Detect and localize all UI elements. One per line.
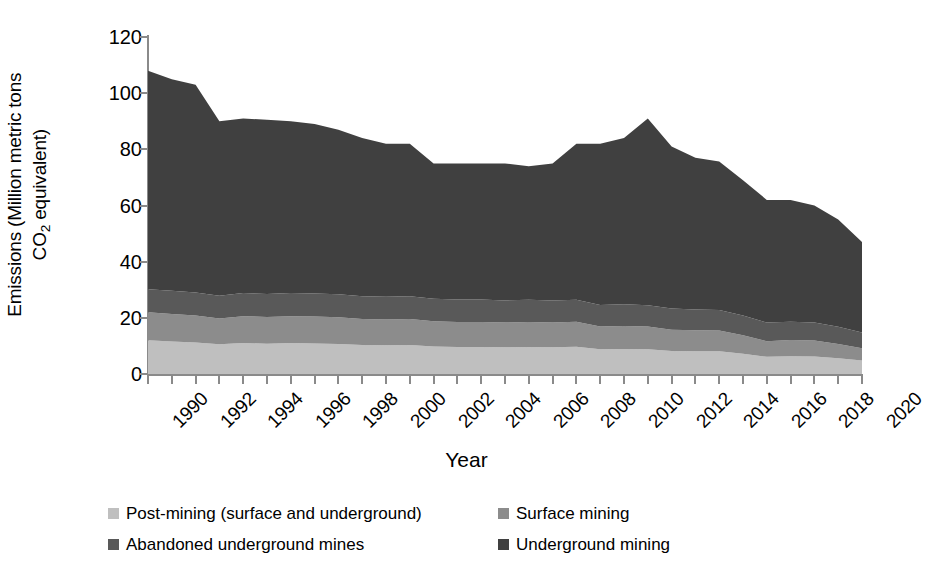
- x-axis-tick-mark: [266, 376, 268, 384]
- x-axis-tick-label: 2000: [406, 388, 451, 433]
- y-axis-tick-label: 80: [100, 138, 142, 161]
- x-axis-tick-label: 2012: [692, 388, 737, 433]
- x-axis-tick-mark: [647, 376, 649, 384]
- x-axis-tick-mark: [242, 376, 244, 384]
- x-axis-tick-mark: [766, 376, 768, 384]
- y-axis-tick-label: 100: [100, 82, 142, 105]
- area-series: [148, 71, 862, 333]
- x-axis-tick-mark: [147, 376, 149, 384]
- legend-item[interactable]: Post-mining (surface and underground): [108, 504, 498, 524]
- x-axis-tick-label: 1992: [216, 388, 261, 433]
- x-axis-tick-mark: [314, 376, 316, 384]
- stacked-area-series-group: [148, 37, 862, 374]
- x-axis-tick-mark: [837, 376, 839, 384]
- x-axis-tick-mark: [742, 376, 744, 384]
- x-axis-tick-label: 2016: [787, 388, 832, 433]
- y-axis-tick-mark: [140, 92, 148, 94]
- y-axis-tick-mark: [140, 373, 148, 375]
- y-axis-title-equivalent: equivalent): [29, 129, 50, 225]
- x-axis-tick-mark: [575, 376, 577, 384]
- legend-label: Surface mining: [516, 504, 629, 524]
- x-axis-tick-mark: [409, 376, 411, 384]
- legend-swatch-icon: [498, 508, 509, 519]
- x-axis-tick-mark: [694, 376, 696, 384]
- x-axis-tick-label: 1994: [263, 388, 308, 433]
- y-axis-tick-labels: 120100806040200: [88, 37, 142, 374]
- x-axis-tick-label: 2018: [834, 388, 879, 433]
- y-axis-tick-label: 60: [100, 194, 142, 217]
- x-axis-tick-mark: [504, 376, 506, 384]
- x-axis-tick-mark: [599, 376, 601, 384]
- x-axis-tick-mark: [480, 376, 482, 384]
- y-axis-title-line1: Emissions (Million metric tons: [4, 73, 25, 317]
- x-axis-tick-label: 2002: [454, 388, 499, 433]
- y-axis-title-subscript: 2: [38, 225, 53, 232]
- legend-item[interactable]: Surface mining: [498, 504, 808, 524]
- x-axis-tick-label: 1990: [168, 388, 213, 433]
- legend-swatch-icon: [108, 508, 119, 519]
- y-axis-tick-label: 40: [100, 250, 142, 273]
- x-axis-title-container: Year: [0, 448, 873, 472]
- x-axis-tick-mark: [385, 376, 387, 384]
- x-axis-tick-label: 2014: [739, 388, 784, 433]
- y-axis-tick-mark: [140, 148, 148, 150]
- y-axis-title-line2: CO2 equivalent): [27, 73, 57, 317]
- x-axis-tick-label: 1998: [358, 388, 403, 433]
- legend-swatch-icon: [498, 539, 509, 550]
- x-axis-tick-mark: [552, 376, 554, 384]
- legend-swatch-icon: [108, 539, 119, 550]
- x-axis-tick-mark: [218, 376, 220, 384]
- x-axis-tick-label: 2020: [882, 388, 926, 433]
- x-axis-tick-mark: [433, 376, 435, 384]
- x-axis-tick-mark: [337, 376, 339, 384]
- legend-item[interactable]: Underground mining: [498, 535, 808, 555]
- chart-legend: Post-mining (surface and underground)Sur…: [108, 498, 808, 560]
- x-axis-tick-mark: [171, 376, 173, 384]
- y-axis-tick-label: 120: [100, 26, 142, 49]
- x-axis-tick-mark: [195, 376, 197, 384]
- y-axis-title-container: Emissions (Million metric tons CO2 equiv…: [0, 0, 60, 390]
- x-axis-tick-mark: [671, 376, 673, 384]
- y-axis-tick-mark: [140, 36, 148, 38]
- plot-area: [148, 37, 862, 374]
- x-axis-tick-label: 2006: [549, 388, 594, 433]
- y-axis-tick-label: 20: [100, 306, 142, 329]
- x-axis-tick-mark: [623, 376, 625, 384]
- x-axis-tick-mark: [718, 376, 720, 384]
- x-axis-tick-mark: [361, 376, 363, 384]
- x-axis-tick-mark: [813, 376, 815, 384]
- x-axis-title: Year: [385, 448, 487, 471]
- legend-label: Post-mining (surface and underground): [126, 504, 422, 524]
- x-axis-tick-mark: [290, 376, 292, 384]
- x-axis-tick-mark: [861, 376, 863, 384]
- y-axis-title: Emissions (Million metric tons CO2 equiv…: [2, 73, 57, 317]
- x-axis-tick-label: 2010: [644, 388, 689, 433]
- x-axis-tick-label: 2008: [596, 388, 641, 433]
- y-axis-tick-mark: [140, 261, 148, 263]
- x-axis-tick-label: 2004: [501, 388, 546, 433]
- y-axis-tick-label: 0: [100, 363, 142, 386]
- x-axis-tick-mark: [790, 376, 792, 384]
- legend-label: Underground mining: [516, 535, 670, 555]
- x-axis-tick-mark: [528, 376, 530, 384]
- y-axis-tick-mark: [140, 205, 148, 207]
- y-axis-title-co: CO: [29, 233, 50, 261]
- x-axis-tick-mark: [456, 376, 458, 384]
- legend-label: Abandoned underground mines: [126, 535, 364, 555]
- x-axis-tick-label: 1996: [311, 388, 356, 433]
- y-axis-tick-mark: [140, 317, 148, 319]
- legend-item[interactable]: Abandoned underground mines: [108, 535, 498, 555]
